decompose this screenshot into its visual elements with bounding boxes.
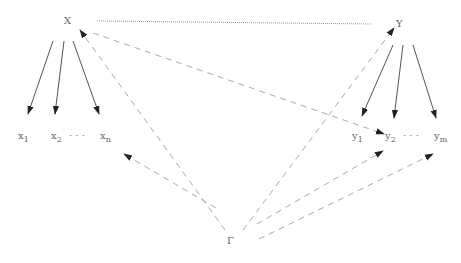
edge-x-y (97, 21, 372, 24)
edge-x-y2-dashed (93, 33, 384, 134)
edge-x-xn (73, 41, 99, 114)
edge-gamma-xgroup (124, 154, 216, 208)
node-ym: ym (434, 131, 447, 144)
node-y: Y (396, 19, 403, 29)
edge-x-x1 (28, 41, 53, 114)
edge-gamma-ym (259, 154, 433, 239)
x-dots: · · · (69, 131, 85, 141)
edge-y-y1 (362, 45, 393, 116)
edge-y-y2 (394, 45, 403, 118)
edge-gamma-y (243, 28, 394, 230)
node-xn: xn (100, 131, 111, 144)
node-y1: y1 (352, 131, 363, 144)
node-x2: x2 (51, 131, 62, 144)
diagram-canvas: X Y Γ x1 x2 · · · xn y1 y2 · · · ym (0, 0, 461, 263)
edge-x-x2 (55, 41, 64, 114)
node-y2: y2 (385, 131, 396, 144)
y-dots: · · · (403, 131, 419, 141)
edge-y-ym (413, 45, 436, 118)
edge-gamma-y2 (257, 151, 383, 224)
node-x: X (64, 16, 71, 26)
node-x1: x1 (18, 131, 29, 144)
node-gamma: Γ (227, 236, 234, 246)
